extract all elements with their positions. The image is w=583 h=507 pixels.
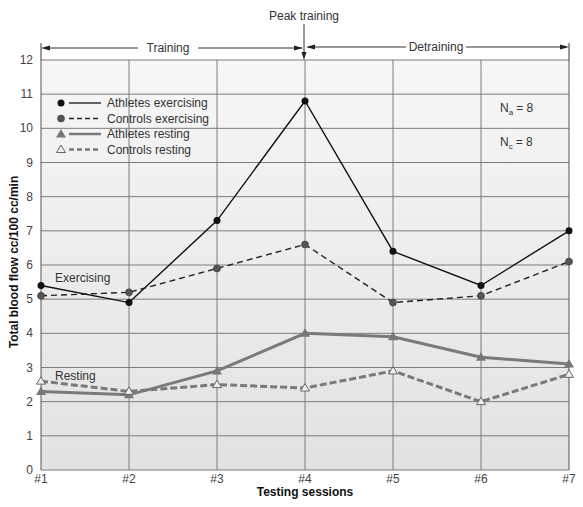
legend-label: Controls resting	[107, 143, 191, 157]
circle-marker-icon	[478, 292, 485, 299]
arrow-right-icon	[560, 45, 569, 50]
y-tick-label: 10	[20, 121, 34, 135]
peak-training-label: Peak training	[269, 9, 339, 23]
y-tick-label: 1	[26, 429, 33, 443]
x-tick-label: #5	[386, 472, 400, 486]
y-axis-ticks: 0123456789101112	[20, 53, 34, 477]
y-tick-label: 4	[26, 326, 33, 340]
y-tick-label: 12	[20, 53, 34, 67]
x-tick-label: #3	[210, 472, 224, 486]
x-tick-label: #2	[122, 472, 136, 486]
circle-marker-icon	[566, 258, 573, 265]
y-tick-label: 8	[26, 190, 33, 204]
y-tick-label: 2	[26, 395, 33, 409]
x-axis-ticks: #1#2#3#4#5#6#7	[34, 472, 576, 486]
circle-marker-icon	[566, 227, 573, 234]
circle-marker-icon	[302, 98, 309, 105]
legend-label: Athletes exercising	[107, 96, 208, 110]
circle-marker-icon	[38, 282, 45, 289]
circle-marker-icon	[38, 292, 45, 299]
circle-marker-icon	[302, 241, 309, 248]
y-tick-label: 5	[26, 292, 33, 306]
circle-marker-icon	[478, 282, 485, 289]
detraining-label: Detraining	[409, 40, 464, 54]
y-tick-label: 9	[26, 156, 33, 170]
blood-flow-line-chart: 0123456789101112 #1#2#3#4#5#6#7 Training…	[0, 0, 583, 507]
x-tick-label: #7	[562, 472, 576, 486]
y-tick-label: 3	[26, 361, 33, 375]
legend-label: Controls exercising	[107, 112, 209, 126]
y-tick-label: 11	[21, 87, 34, 101]
resting-group-label: Resting	[55, 369, 96, 383]
circle-marker-icon	[390, 299, 397, 306]
x-tick-label: #6	[474, 472, 488, 486]
arrow-right-icon	[294, 46, 303, 51]
circle-marker-icon	[214, 265, 221, 272]
arrow-left-icon	[41, 46, 50, 51]
arrow-left-icon	[306, 45, 315, 50]
training-label: Training	[147, 41, 190, 55]
x-axis-title: Testing sessions	[257, 485, 354, 499]
legend-label: Athletes resting	[107, 127, 190, 141]
circle-marker-icon	[58, 100, 65, 107]
exercising-group-label: Exercising	[55, 271, 110, 285]
y-tick-label: 0	[26, 463, 33, 477]
y-tick-label: 6	[26, 258, 33, 272]
n-athletes-label: Na= 8	[500, 101, 533, 117]
phase-annotations: Training Detraining Peak training	[41, 9, 569, 60]
arrow-down-icon	[302, 52, 307, 60]
x-tick-label: #4	[298, 472, 312, 486]
circle-marker-icon	[126, 289, 133, 296]
circle-marker-icon	[126, 299, 133, 306]
circle-marker-icon	[58, 115, 65, 122]
x-tick-label: #1	[34, 472, 48, 486]
y-axis-title: Total blood flow cc/100 cc/min	[7, 176, 21, 348]
circle-marker-icon	[390, 248, 397, 255]
y-tick-label: 7	[26, 224, 33, 238]
n-controls-label: Nc= 8	[500, 135, 533, 151]
circle-marker-icon	[214, 217, 221, 224]
